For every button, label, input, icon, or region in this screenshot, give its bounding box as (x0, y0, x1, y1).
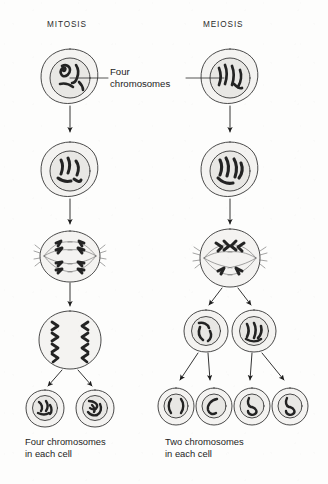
meiosis-intermediate-cell-1 (184, 310, 228, 352)
callout-four-chromosomes: Four chromosomes (110, 66, 170, 89)
mitosis-daughter-cell-1 (26, 390, 64, 427)
meiosis-daughter-cell-1 (158, 388, 194, 425)
mitosis-stage-1-cell (41, 49, 98, 104)
mitosis-stage-4-cell (39, 311, 101, 369)
diagram-canvas: MITOSIS MEIOSIS Four chromosomes Four ch… (0, 0, 328, 484)
caption-meiosis-line-1: Two chromosomes (165, 436, 244, 448)
meiosis-stage-1-cell (201, 49, 258, 104)
mitosis-stage-2-cell (41, 142, 98, 197)
mitosis-stage-3-cell (34, 231, 106, 282)
meiosis-stage-2-cell (201, 142, 258, 197)
meiosis-daughter-cell-3 (234, 388, 270, 425)
meiosis-stage-3-cell (193, 229, 267, 287)
meiosis-daughter-cell-2 (196, 388, 232, 425)
callout-line-2: chromosomes (110, 78, 170, 90)
caption-meiosis-line-2: in each cell (165, 448, 244, 460)
mitosis-daughter-cell-2 (76, 390, 114, 427)
column-title-meiosis: MEIOSIS (203, 20, 243, 29)
meiosis-daughter-cell-4 (272, 388, 308, 425)
caption-mitosis-line-1: Four chromosomes (25, 436, 106, 448)
callout-line-1: Four (110, 66, 170, 78)
caption-mitosis: Four chromosomes in each cell (25, 436, 106, 460)
meiosis-intermediate-cell-2 (232, 310, 276, 352)
caption-mitosis-line-2: in each cell (25, 448, 106, 460)
caption-meiosis: Two chromosomes in each cell (165, 436, 244, 460)
column-title-mitosis: MITOSIS (47, 20, 87, 29)
